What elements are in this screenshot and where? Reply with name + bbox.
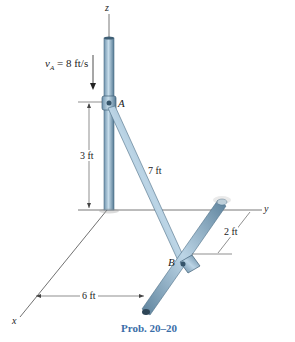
x-axis-label: x [12,315,16,326]
rod-length-dimension: 7 ft [148,165,162,176]
height-dimension: 3 ft [80,150,94,161]
y-axis-label: y [264,203,268,214]
problem-caption: Prob. 20–20 [121,322,177,334]
offset-dimension: 2 ft [224,226,238,237]
vertical-pole [104,38,114,210]
horizontal-rod [142,200,226,315]
distance-dimension: 6 ft [80,290,98,301]
rod-ab [108,106,186,265]
velocity-label: vA = 8 ft/s [45,57,88,72]
z-axis-label: z [105,2,109,13]
point-b-label: B [168,256,175,268]
point-a-label: A [118,97,125,109]
